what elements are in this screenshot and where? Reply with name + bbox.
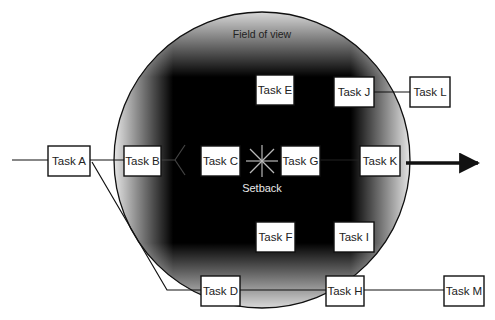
task-label: Task L bbox=[413, 86, 447, 98]
field-of-view-diagram: Field of view Setback Task ATask BTask C… bbox=[0, 0, 495, 320]
task-box-m: Task M bbox=[444, 276, 484, 306]
diagram-canvas: Field of view Setback Task ATask BTask C… bbox=[0, 0, 495, 320]
task-label: Task E bbox=[258, 84, 293, 96]
setback-label: Setback bbox=[242, 182, 282, 194]
task-label: Task K bbox=[363, 155, 398, 167]
task-box-h: Task H bbox=[326, 276, 364, 306]
task-box-b: Task B bbox=[124, 146, 161, 176]
task-box-l: Task L bbox=[410, 77, 450, 107]
task-label: Task G bbox=[283, 155, 319, 167]
task-box-f: Task F bbox=[256, 222, 295, 252]
task-label: Task H bbox=[327, 285, 362, 297]
task-box-d: Task D bbox=[201, 276, 240, 306]
task-box-j: Task J bbox=[334, 77, 374, 107]
task-box-a: Task A bbox=[48, 146, 90, 176]
task-box-e: Task E bbox=[256, 75, 294, 105]
task-box-i: Task I bbox=[334, 222, 374, 252]
task-label: Task A bbox=[52, 155, 86, 167]
task-label: Task D bbox=[203, 285, 238, 297]
task-label: Task I bbox=[339, 231, 369, 243]
field-of-view-label: Field of view bbox=[233, 28, 292, 40]
task-label: Task M bbox=[446, 285, 482, 297]
task-label: Task C bbox=[203, 155, 238, 167]
task-label: Task B bbox=[125, 155, 160, 167]
setback-burst-icon bbox=[246, 145, 278, 177]
task-box-k: Task K bbox=[360, 146, 400, 176]
task-box-c: Task C bbox=[201, 146, 240, 176]
task-box-g: Task G bbox=[281, 146, 320, 176]
task-label: Task J bbox=[338, 86, 371, 98]
task-label: Task F bbox=[259, 231, 293, 243]
